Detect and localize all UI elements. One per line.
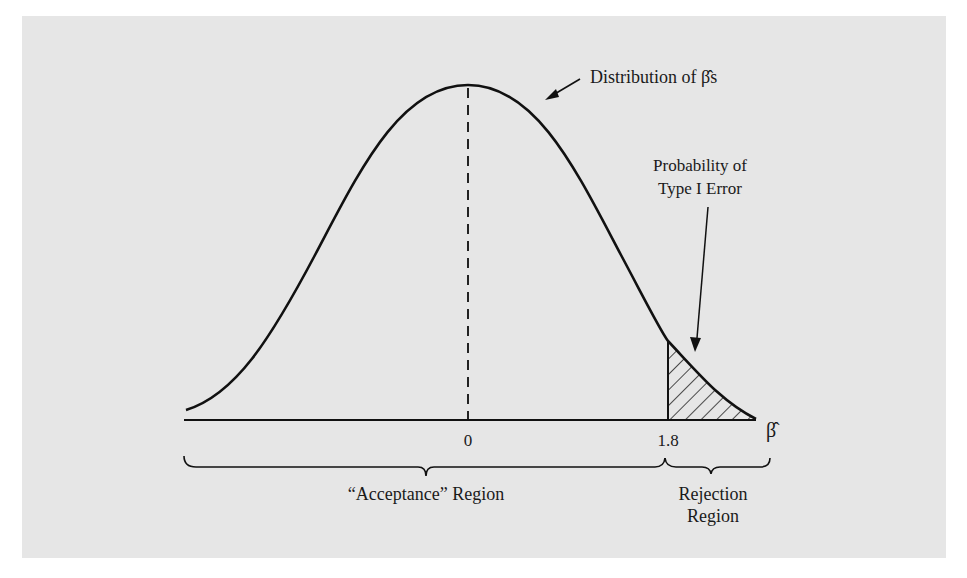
- rejection-region-brace: [665, 458, 770, 474]
- error-label-line2: Type I Error: [658, 179, 742, 198]
- error-label-arrow: [690, 207, 708, 352]
- error-label-line1: Probability of: [653, 156, 747, 175]
- sampling-distribution-diagram: Distribution of β̂s Probability of Type …: [0, 0, 967, 578]
- axis-symbol: β̂: [766, 419, 780, 442]
- curve-label: Distribution of β̂s: [590, 67, 717, 87]
- acceptance-region-label: “Acceptance” Region: [348, 484, 504, 504]
- rejection-region-label-line2: Region: [687, 506, 739, 526]
- rejection-region-label-line1: Rejection: [679, 484, 748, 504]
- acceptance-region-brace: [184, 456, 665, 476]
- curve-label-arrow: [545, 79, 580, 100]
- tick-label-zero: 0: [464, 431, 473, 450]
- tick-label-critical: 1.8: [657, 431, 678, 450]
- rejection-tail-shading: [668, 330, 768, 425]
